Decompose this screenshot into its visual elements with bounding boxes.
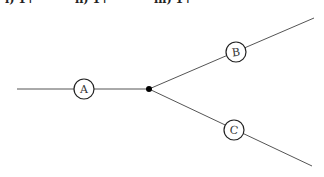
node-a-label: A: [79, 83, 89, 96]
junction-dot: [146, 86, 152, 92]
node-c-label: C: [229, 123, 239, 137]
node-c: C: [224, 120, 244, 140]
node-a: A: [74, 79, 94, 99]
circuit-diagram: A B C: [0, 0, 324, 177]
node-b: B: [226, 42, 246, 62]
